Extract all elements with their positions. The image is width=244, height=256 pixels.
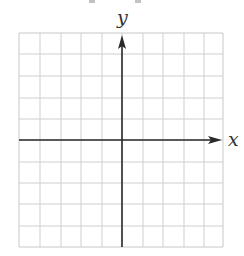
y-axis-label: y: [116, 6, 128, 28]
top-text-fragment-left: [89, 0, 95, 3]
x-axis-label: x: [228, 128, 239, 150]
grid-svg: x y: [0, 0, 244, 256]
coordinate-plane: x y: [0, 0, 244, 256]
top-text-fragment-right: [135, 0, 141, 3]
axes: [19, 35, 222, 247]
